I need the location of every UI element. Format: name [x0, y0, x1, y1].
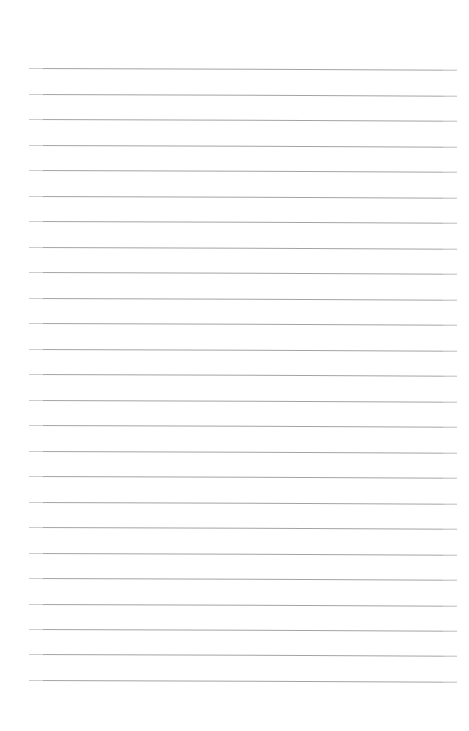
- rule-line[interactable]: [29, 68, 457, 71]
- lined-paper-page: [0, 0, 469, 731]
- rule-line[interactable]: [29, 349, 457, 352]
- rule-line[interactable]: [29, 425, 457, 428]
- rule-line[interactable]: [29, 578, 457, 581]
- rule-line[interactable]: [29, 629, 457, 632]
- rule-line[interactable]: [29, 170, 457, 173]
- rule-line[interactable]: [29, 247, 457, 250]
- rule-line[interactable]: [29, 400, 457, 403]
- ruled-line-area[interactable]: [0, 0, 469, 731]
- rule-line[interactable]: [29, 272, 457, 275]
- rule-line[interactable]: [29, 476, 457, 479]
- rule-line[interactable]: [29, 374, 457, 377]
- rule-line[interactable]: [29, 451, 457, 454]
- rule-line[interactable]: [29, 119, 457, 122]
- rule-line[interactable]: [29, 94, 457, 97]
- rule-line[interactable]: [29, 298, 457, 301]
- rule-line[interactable]: [29, 196, 457, 199]
- rule-line[interactable]: [29, 654, 457, 657]
- rule-line[interactable]: [29, 502, 457, 505]
- rule-line[interactable]: [29, 604, 457, 607]
- rule-line[interactable]: [29, 553, 457, 556]
- rule-line[interactable]: [29, 323, 457, 326]
- rule-line[interactable]: [29, 527, 457, 530]
- rule-line[interactable]: [29, 680, 457, 683]
- rule-line[interactable]: [29, 145, 457, 148]
- rule-line[interactable]: [29, 221, 457, 224]
